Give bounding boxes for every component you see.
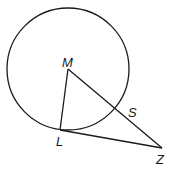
segment-lz <box>60 130 162 148</box>
label-l: L <box>56 134 63 149</box>
label-m: M <box>62 55 73 70</box>
segment-ml <box>60 69 68 130</box>
geometry-diagram: M L S Z <box>0 0 174 170</box>
label-s: S <box>128 105 137 120</box>
segment-mz <box>68 69 162 148</box>
label-z: Z <box>155 152 165 167</box>
